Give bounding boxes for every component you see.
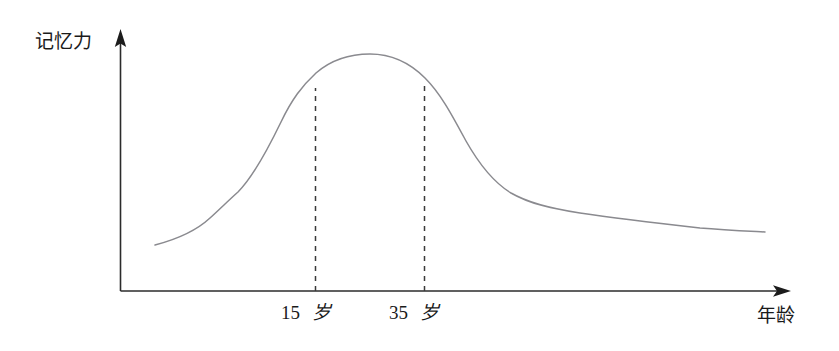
tick-label-35-unit: 岁 [420,302,441,323]
tick-label-35-number: 35 [389,302,408,323]
memory-vs-age-chart: 记忆力 年龄 15 岁 35 岁 [0,0,839,351]
chart-canvas: 记忆力 年龄 15 岁 35 岁 [0,0,839,351]
chart-background [0,0,839,351]
x-axis-title: 年龄 [757,304,795,326]
y-axis-title: 记忆力 [35,30,92,52]
tick-label-15-unit: 岁 [312,302,333,323]
tick-label-15-number: 15 [281,302,300,323]
